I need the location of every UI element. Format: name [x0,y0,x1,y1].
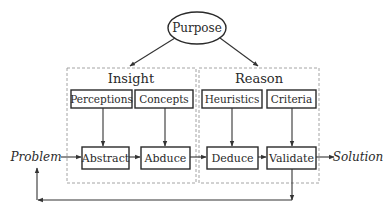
solution-label: Solution [333,150,384,164]
criteria-node: Criteria [267,90,316,108]
arrow-purpose-reason [220,38,258,66]
deduce-node: Deduce [207,147,258,169]
problem-solving-diagram: Purpose Insight Reason Perceptions Conce… [0,0,392,215]
concepts-node: Concepts [135,90,193,108]
concepts-label: Concepts [139,93,189,105]
abstract-label: Abstract [81,152,130,165]
arrow-purpose-insight [130,38,175,66]
insight-title: Insight [108,71,155,86]
abduce-node: Abduce [141,147,190,169]
reason-title: Reason [235,71,284,86]
criteria-label: Criteria [271,93,312,105]
abstract-node: Abstract [81,147,130,169]
abduce-label: Abduce [144,152,187,165]
problem-label: Problem [9,150,61,164]
purpose-node: Purpose [168,12,226,44]
validate-label: Validate [268,152,314,165]
perceptions-node: Perceptions [70,90,133,108]
deduce-label: Deduce [211,152,253,165]
heuristics-label: Heuristics [205,93,260,105]
purpose-label: Purpose [172,21,222,35]
validate-node: Validate [267,147,316,169]
perceptions-label: Perceptions [70,93,133,105]
heuristics-node: Heuristics [202,90,262,108]
